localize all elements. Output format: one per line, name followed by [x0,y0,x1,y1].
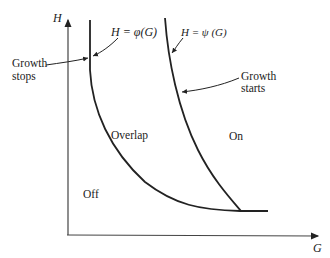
phi-label-leader [93,38,118,56]
growth-starts-leader [182,78,239,92]
growth-stops-label-line1: Growth [12,57,47,69]
psi-label-leader [172,38,183,53]
growth-starts-label-line1: Growth [241,70,276,82]
region-overlap-label: Overlap [111,129,148,142]
x-axis-label: G [313,241,322,255]
growth-stops-leader [46,58,88,65]
y-axis-label: H [52,11,63,25]
hysteresis-diagram: H G H = φ(G) H = ψ (G) Growth stops Grow… [0,0,330,258]
psi-curve-label: H = ψ (G) [180,26,227,39]
growth-stops-label-line2: stops [12,70,36,83]
phi-curve-label: H = φ(G) [110,25,157,39]
region-off-label: Off [83,188,99,200]
x-axis [67,235,318,236]
phi-curve [90,20,268,211]
region-on-label: On [229,130,243,142]
growth-starts-label-line2: starts [241,82,266,94]
